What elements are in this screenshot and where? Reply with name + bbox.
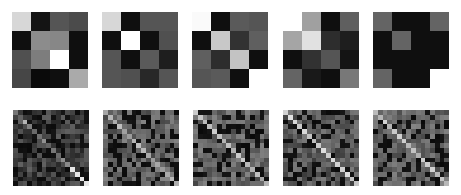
top-heatmap-1 [102, 12, 178, 88]
heatmap-cell [192, 50, 211, 69]
heatmap-cell [31, 31, 50, 50]
bottom-heatmap-3 [283, 110, 359, 186]
heatmap-cell [321, 12, 340, 31]
heatmap-cell [121, 12, 140, 31]
heatmap-cell [302, 31, 321, 50]
heatmap-cell [159, 12, 178, 31]
heatmap-cell [192, 31, 211, 50]
bottom-heatmap-0 [13, 110, 89, 186]
heatmap-cell [392, 12, 411, 31]
heatmap-cell [230, 31, 249, 50]
bottom-heatmap-4 [373, 110, 449, 186]
heatmap-cell [373, 12, 392, 31]
heatmap-cell [321, 50, 340, 69]
heatmap-cell [140, 31, 159, 50]
heatmap-cell [12, 50, 31, 69]
heatmap-cell [69, 50, 88, 69]
heatmap-cell [411, 50, 430, 69]
heatmap-cell [230, 50, 249, 69]
heatmap-cell [69, 12, 88, 31]
heatmap-cell [211, 31, 230, 50]
heatmap-cell [340, 12, 359, 31]
heatmap-cell [192, 12, 211, 31]
heatmap-cell [373, 31, 392, 50]
heatmap-cell [302, 69, 321, 88]
heatmap-cell [102, 50, 121, 69]
heatmap-cell [121, 69, 140, 88]
heatmap-cell [264, 181, 269, 186]
heatmap-cell [283, 50, 302, 69]
top-heatmap-3 [283, 12, 359, 88]
heatmap-cell [430, 31, 449, 50]
top-heatmap-4 [373, 12, 449, 88]
heatmap-cell [140, 50, 159, 69]
top-heatmap-2 [192, 12, 268, 88]
heatmap-cell [354, 181, 359, 186]
heatmap-cell [102, 31, 121, 50]
heatmap-cell [31, 69, 50, 88]
bottom-heatmap-2 [193, 110, 269, 186]
heatmap-cell [302, 50, 321, 69]
heatmap-cell [321, 31, 340, 50]
heatmap-cell [12, 69, 31, 88]
heatmap-cell [340, 50, 359, 69]
heatmap-cell [411, 69, 430, 88]
heatmap-cell [121, 31, 140, 50]
heatmap-cell [159, 31, 178, 50]
heatmap-cell [283, 69, 302, 88]
heatmap-cell [411, 12, 430, 31]
heatmap-cell [411, 31, 430, 50]
heatmap-cell [444, 181, 449, 186]
heatmap-cell [230, 69, 249, 88]
heatmap-cell [302, 12, 321, 31]
heatmap-cell [50, 31, 69, 50]
heatmap-cell [12, 12, 31, 31]
bottom-heatmap-1 [103, 110, 179, 186]
heatmap-cell [249, 50, 268, 69]
heatmap-cell [283, 31, 302, 50]
heatmap-cell [102, 69, 121, 88]
heatmap-cell [430, 69, 449, 88]
heatmap-cell [430, 50, 449, 69]
heatmap-cell [211, 12, 230, 31]
heatmap-cell [283, 12, 302, 31]
top-heatmap-0 [12, 12, 88, 88]
heatmap-cell [50, 69, 69, 88]
heatmap-cell [31, 50, 50, 69]
heatmap-cell [373, 50, 392, 69]
heatmap-cell [140, 12, 159, 31]
heatmap-cell [373, 69, 392, 88]
heatmap-cell [249, 31, 268, 50]
heatmap-cell [340, 69, 359, 88]
heatmap-cell [340, 31, 359, 50]
heatmap-cell [211, 69, 230, 88]
heatmap-cell [84, 181, 89, 186]
heatmap-cell [12, 31, 31, 50]
heatmap-cell [159, 69, 178, 88]
heatmap-cell [121, 50, 140, 69]
heatmap-cell [192, 69, 211, 88]
heatmap-cell [140, 69, 159, 88]
heatmap-cell [69, 69, 88, 88]
heatmap-cell [392, 69, 411, 88]
heatmap-cell [102, 12, 121, 31]
heatmap-cell [392, 50, 411, 69]
heatmap-cell [321, 69, 340, 88]
heatmap-cell [249, 12, 268, 31]
heatmap-cell [392, 31, 411, 50]
heatmap-cell [159, 50, 178, 69]
heatmap-cell [50, 50, 69, 69]
heatmap-cell [230, 12, 249, 31]
heatmap-cell [211, 50, 230, 69]
heatmap-cell [31, 12, 50, 31]
heatmap-cell [50, 12, 69, 31]
heatmap-cell [430, 12, 449, 31]
heatmap-cell [249, 69, 268, 88]
heatmap-cell [69, 31, 88, 50]
heatmap-cell [174, 181, 179, 186]
